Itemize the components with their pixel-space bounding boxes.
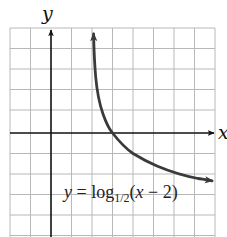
equation-log: = log — [72, 182, 114, 202]
x-axis-label: x — [218, 121, 227, 143]
logarithm-graph: y x y = log1/2(x − 2) — [0, 0, 227, 237]
equation-label: y = log1/2(x − 2) — [62, 182, 178, 205]
equation-rest: − 2) — [144, 182, 178, 203]
equation-x: x — [135, 182, 144, 202]
equation-base: 1/2 — [114, 191, 129, 205]
y-axis-label: y — [41, 2, 53, 24]
equation-y: y — [62, 182, 72, 202]
